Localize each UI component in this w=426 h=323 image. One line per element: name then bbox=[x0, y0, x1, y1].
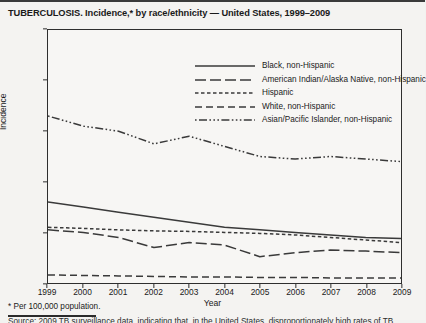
series-line bbox=[48, 230, 401, 257]
legend-line-swatch bbox=[195, 75, 255, 85]
x-tick-label: 2004 bbox=[215, 287, 234, 297]
legend-label: American Indian/Alaska Native, non-Hispa… bbox=[262, 74, 426, 86]
y-axis-label: Incidence bbox=[0, 94, 8, 130]
x-tick-label: 2006 bbox=[286, 287, 305, 297]
x-tick-mark bbox=[330, 284, 331, 288]
x-tick-label: 2003 bbox=[180, 287, 199, 297]
source-note: Source: 2009 TB surveillance data, indic… bbox=[8, 317, 421, 323]
x-tick-mark bbox=[153, 284, 154, 288]
x-tick-mark bbox=[366, 284, 367, 288]
legend-item: Black, non-Hispanic bbox=[195, 60, 426, 72]
x-tick-label: 2000 bbox=[73, 287, 92, 297]
legend-line-swatch bbox=[195, 61, 255, 71]
x-tick-label: 2008 bbox=[357, 287, 376, 297]
legend-label: Hispanic bbox=[262, 87, 293, 99]
x-tick-label: 2007 bbox=[322, 287, 341, 297]
x-tick-label: 2005 bbox=[251, 287, 270, 297]
x-tick-label: 2002 bbox=[144, 287, 163, 297]
x-tick-mark bbox=[82, 284, 83, 288]
x-tick-label: 1999 bbox=[38, 287, 57, 297]
x-tick-label: 2001 bbox=[109, 287, 128, 297]
legend-item: White, non-Hispanic bbox=[195, 101, 426, 113]
x-tick-mark bbox=[46, 284, 47, 288]
legend-label: Asian/Pacific Islander, non-Hispanic bbox=[262, 114, 392, 126]
x-tick-mark bbox=[117, 284, 118, 288]
plot-frame: Black, non-HispanicAmerican Indian/Alask… bbox=[47, 29, 402, 284]
legend-line-swatch bbox=[195, 88, 255, 98]
x-tick-mark bbox=[401, 284, 402, 288]
legend-line-swatch bbox=[195, 115, 255, 125]
legend-line-swatch bbox=[195, 102, 255, 112]
x-tick-label: 2009 bbox=[393, 287, 412, 297]
legend-item: American Indian/Alaska Native, non-Hispa… bbox=[195, 74, 426, 86]
x-tick-mark bbox=[188, 284, 189, 288]
legend-item: Asian/Pacific Islander, non-Hispanic bbox=[195, 114, 426, 126]
x-tick-mark bbox=[224, 284, 225, 288]
legend-label: Black, non-Hispanic bbox=[262, 60, 334, 72]
series-line bbox=[48, 275, 401, 278]
page-title: TUBERCULOSIS. Incidence,* by race/ethnic… bbox=[8, 8, 417, 18]
legend-item: Hispanic bbox=[195, 87, 426, 99]
footnote: * Per 100,000 population. bbox=[8, 302, 100, 311]
legend-label: White, non-Hispanic bbox=[262, 101, 335, 113]
legend: Black, non-HispanicAmerican Indian/Alask… bbox=[195, 60, 426, 126]
x-tick-mark bbox=[259, 284, 260, 288]
x-tick-mark bbox=[295, 284, 296, 288]
